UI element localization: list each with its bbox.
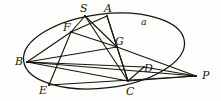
- point-label-G: G: [115, 36, 124, 47]
- figure-canvas: [0, 0, 221, 101]
- point-label-S: S: [80, 3, 88, 14]
- point-label-P: P: [202, 70, 209, 81]
- point-label-A: A: [104, 3, 112, 14]
- curve-label-a: a: [141, 17, 147, 27]
- segment-BD: [27, 62, 144, 67]
- segment-GB: [27, 47, 117, 62]
- geometry-figure: SAFGBDPECa: [0, 0, 221, 101]
- vertex-dot-P: [195, 75, 197, 77]
- point-label-E: E: [39, 85, 47, 96]
- segment-GP: [117, 47, 196, 76]
- vertex-dot-C: [127, 80, 129, 82]
- point-label-F: F: [63, 22, 71, 33]
- point-label-C: C: [126, 86, 134, 97]
- vertex-dot-B: [26, 61, 28, 63]
- vertex-dot-A: [106, 15, 108, 17]
- vertex-dots-group: [26, 15, 197, 86]
- segment-FG: [71, 32, 117, 47]
- segment-CP: [128, 76, 196, 81]
- point-label-D: D: [144, 63, 153, 74]
- segment-GC: [117, 47, 128, 81]
- segment-BC: [27, 62, 128, 81]
- vertex-dot-E: [48, 84, 50, 86]
- segment-BP: [27, 62, 196, 76]
- point-label-B: B: [15, 56, 23, 67]
- vertex-dot-S: [84, 15, 86, 17]
- line-segments-group: [27, 16, 196, 85]
